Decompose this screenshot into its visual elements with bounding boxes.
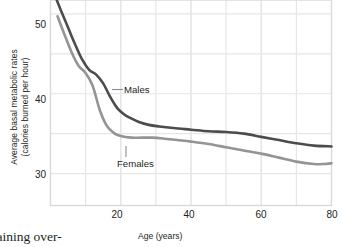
annotation-leader-lines	[112, 90, 126, 158]
gridlines	[51, 0, 332, 206]
series-line-males	[54, 0, 331, 146]
series-label-males: Males	[124, 84, 150, 95]
page-body-text-fragment: maining over-	[0, 229, 62, 245]
series-paths	[54, 0, 331, 164]
series-label-females: Females	[117, 158, 154, 169]
